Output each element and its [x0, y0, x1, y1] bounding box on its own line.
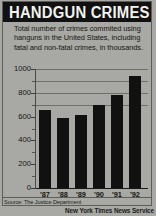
y-tick-800	[31, 93, 35, 94]
y-tick-900	[32, 81, 35, 82]
y-tick-100	[32, 176, 35, 177]
source-note: Source: The Justice Department	[4, 199, 81, 206]
bar-series	[36, 69, 148, 188]
y-axis-label-1000: 1000	[3, 65, 31, 73]
y-tick-300	[32, 152, 35, 153]
y-axis-label-800: 800	[3, 89, 31, 97]
bar-88	[57, 118, 69, 188]
y-tick-700	[32, 105, 35, 106]
y-axis-labels: 1000 800 600 400 200 0	[0, 0, 31, 216]
y-tick-200	[31, 164, 35, 165]
bar-92	[129, 76, 141, 188]
credit-line: New York Times News Service	[65, 207, 154, 215]
chart-subtitle: Total number of crimes commited using ha…	[14, 24, 148, 52]
y-tick-0	[31, 188, 35, 189]
bar-89	[75, 115, 87, 188]
source-divider	[3, 197, 151, 198]
y-axis-label-600: 600	[3, 113, 31, 121]
y-axis-label-200: 200	[3, 160, 31, 168]
infographic-page: HANDGUN CRIMES Total number of crimes co…	[0, 0, 156, 216]
bar-91	[111, 95, 123, 188]
x-axis-baseline	[36, 188, 148, 189]
y-tick-500	[32, 129, 35, 130]
y-axis-label-0: 0	[3, 184, 31, 192]
y-tick-1000	[31, 69, 35, 70]
bar-90	[93, 105, 105, 188]
y-tick-400	[31, 140, 35, 141]
bar-87	[39, 110, 51, 189]
y-tick-600	[31, 117, 35, 118]
y-axis-label-400: 400	[3, 136, 31, 144]
